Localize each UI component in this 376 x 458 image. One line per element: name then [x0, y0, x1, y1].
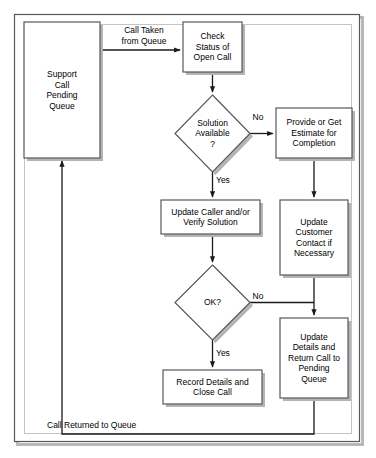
flowchart-graphics [0, 0, 376, 458]
edge-label-call-taken: Call Taken from Queue [106, 25, 182, 46]
node-record-details [163, 370, 262, 404]
edge-label-ok-yes: Yes [216, 348, 238, 359]
flowchart-canvas: Support Call Pending Queue Check Status … [0, 0, 376, 458]
edge-label-solution-no: No [249, 112, 267, 123]
node-update-caller [161, 200, 260, 234]
edge-label-call-returned: Call Returned to Queue [47, 420, 187, 431]
node-check-status [183, 22, 242, 72]
node-update-customer-contact [280, 200, 348, 275]
node-provide-estimate [276, 108, 352, 158]
node-update-details-return [280, 318, 348, 398]
edge-label-ok-no: No [249, 291, 267, 302]
node-pending-queue [24, 22, 100, 158]
edge-label-solution-yes: Yes [216, 175, 238, 186]
